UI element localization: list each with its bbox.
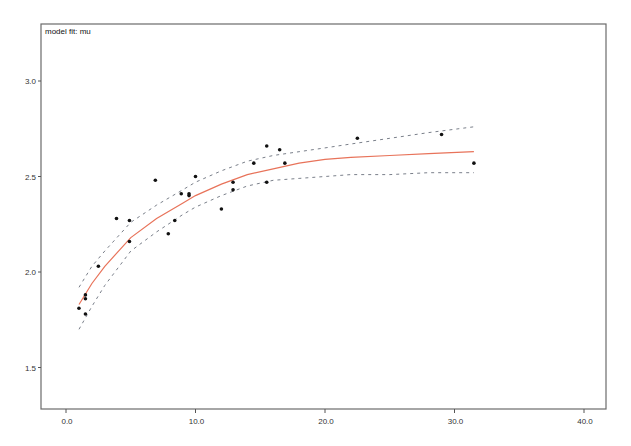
data-point <box>97 264 101 268</box>
x-tick-label: 10.0 <box>189 417 205 426</box>
x-tick-label: 0.0 <box>61 417 73 426</box>
y-tick-label: 2.0 <box>25 268 37 277</box>
data-point <box>220 207 224 211</box>
data-point <box>265 180 269 184</box>
model-fit-chart: model fit: mu 1.52.02.53.0 0.010.020.030… <box>0 0 631 446</box>
data-point <box>84 297 88 301</box>
data-point <box>278 148 282 152</box>
data-point <box>154 179 158 183</box>
data-point <box>231 188 235 192</box>
x-tick-label: 30.0 <box>448 417 464 426</box>
data-point <box>179 192 183 196</box>
data-point <box>265 144 269 148</box>
data-point <box>187 194 191 198</box>
y-tick-label: 3.0 <box>25 77 37 86</box>
data-point <box>84 293 88 297</box>
data-point <box>252 161 256 165</box>
data-point <box>77 306 81 310</box>
data-point <box>173 219 177 223</box>
chart-title: model fit: mu <box>45 27 91 36</box>
data-point <box>231 180 235 184</box>
data-point <box>472 161 476 165</box>
data-point <box>440 133 444 137</box>
data-point <box>356 137 360 141</box>
x-tick-label: 40.0 <box>577 417 593 426</box>
data-point <box>128 219 132 223</box>
data-point <box>84 312 88 316</box>
chart-background <box>0 0 631 446</box>
x-tick-label: 20.0 <box>318 417 334 426</box>
y-tick-label: 2.5 <box>25 173 37 182</box>
data-point <box>194 175 198 179</box>
data-point <box>167 232 171 236</box>
data-point <box>128 240 132 244</box>
data-point <box>283 161 287 165</box>
y-tick-label: 1.5 <box>25 364 37 373</box>
data-point <box>115 217 119 221</box>
